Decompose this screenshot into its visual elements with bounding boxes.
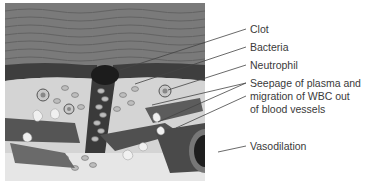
label-neutrophil: Neutrophil: [250, 59, 298, 72]
inflammation-diagram: Clot Bacteria Neutrophil Seepage of plas…: [0, 0, 365, 184]
label-clot: Clot: [250, 23, 269, 36]
label-seepage-line-1: Seepage of plasma and: [250, 77, 361, 90]
label-seepage-line-2: migration of WBC out: [250, 90, 350, 103]
label-vasodilation: Vasodilation: [250, 140, 306, 153]
label-bacteria: Bacteria: [250, 41, 289, 54]
label-seepage-line-3: of blood vessels: [250, 103, 325, 116]
tissue-illustration: [5, 3, 205, 181]
